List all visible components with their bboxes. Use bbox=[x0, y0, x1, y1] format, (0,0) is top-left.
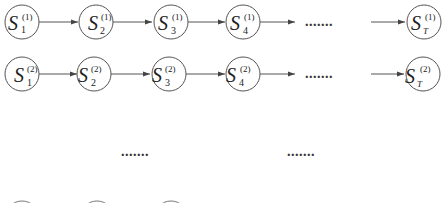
node-s2-1: S 2 (1) bbox=[79, 5, 113, 39]
svg-text:(2): (2) bbox=[420, 64, 431, 74]
svg-text:4: 4 bbox=[243, 25, 248, 36]
svg-text:3: 3 bbox=[165, 77, 170, 88]
node-sT-1: S T (1) bbox=[407, 5, 441, 39]
vertical-ellipsis-right: ....... bbox=[287, 144, 315, 159]
svg-text:(1): (1) bbox=[101, 12, 112, 22]
svg-text:(2): (2) bbox=[27, 64, 38, 74]
partial-node-3 bbox=[154, 201, 188, 203]
node-s1-1: S 1 (1) bbox=[5, 5, 39, 39]
svg-text:2: 2 bbox=[91, 77, 96, 88]
svg-text:(1): (1) bbox=[425, 12, 436, 22]
svg-text:(2): (2) bbox=[165, 64, 176, 74]
svg-text:S: S bbox=[14, 64, 24, 86]
node-s1-2: S 1 (2) bbox=[5, 57, 39, 91]
node-s4-2: S 4 (2) bbox=[226, 57, 260, 91]
svg-text:3: 3 bbox=[171, 25, 176, 36]
node-s4-1: S 4 (1) bbox=[226, 5, 260, 39]
svg-text:S: S bbox=[405, 65, 415, 87]
svg-text:S: S bbox=[226, 64, 236, 86]
svg-text:S: S bbox=[411, 12, 421, 34]
svg-text:S: S bbox=[230, 12, 240, 34]
svg-text:2: 2 bbox=[100, 25, 105, 36]
svg-text:S: S bbox=[88, 12, 98, 34]
svg-text:S: S bbox=[152, 64, 162, 86]
node-s3-1: S 3 (1) bbox=[154, 5, 188, 39]
svg-text:S: S bbox=[78, 64, 88, 86]
row-ellipsis-1: ....... bbox=[305, 14, 333, 29]
partial-node-1 bbox=[5, 201, 39, 203]
row-2: S 1 (2) S 2 (2) S 3 (2) S 4 (2) ....... bbox=[5, 57, 440, 91]
partial-node-2 bbox=[80, 201, 114, 203]
node-sT-2: S T (2) bbox=[405, 57, 440, 91]
row-1: S 1 (1) S 2 (1) S 3 (1) S 4 (1) ....... bbox=[5, 5, 441, 39]
node-s3-2: S 3 (2) bbox=[152, 57, 186, 91]
state-chain-diagram: S 1 (1) S 2 (1) S 3 (1) S 4 (1) ....... bbox=[0, 0, 448, 203]
svg-text:4: 4 bbox=[239, 77, 244, 88]
row-ellipsis-2: ....... bbox=[305, 66, 333, 81]
row-3-partial bbox=[5, 201, 188, 203]
svg-text:(2): (2) bbox=[240, 64, 251, 74]
svg-text:1: 1 bbox=[21, 24, 26, 35]
svg-text:1: 1 bbox=[27, 77, 32, 88]
svg-text:(1): (1) bbox=[244, 12, 255, 22]
node-s2-2: S 2 (2) bbox=[77, 57, 111, 91]
svg-text:S: S bbox=[158, 12, 168, 34]
svg-text:(1): (1) bbox=[22, 12, 33, 22]
svg-text:(1): (1) bbox=[172, 12, 183, 22]
vertical-ellipsis-left: ....... bbox=[121, 144, 149, 159]
svg-text:S: S bbox=[8, 12, 18, 34]
svg-text:(2): (2) bbox=[91, 64, 102, 74]
